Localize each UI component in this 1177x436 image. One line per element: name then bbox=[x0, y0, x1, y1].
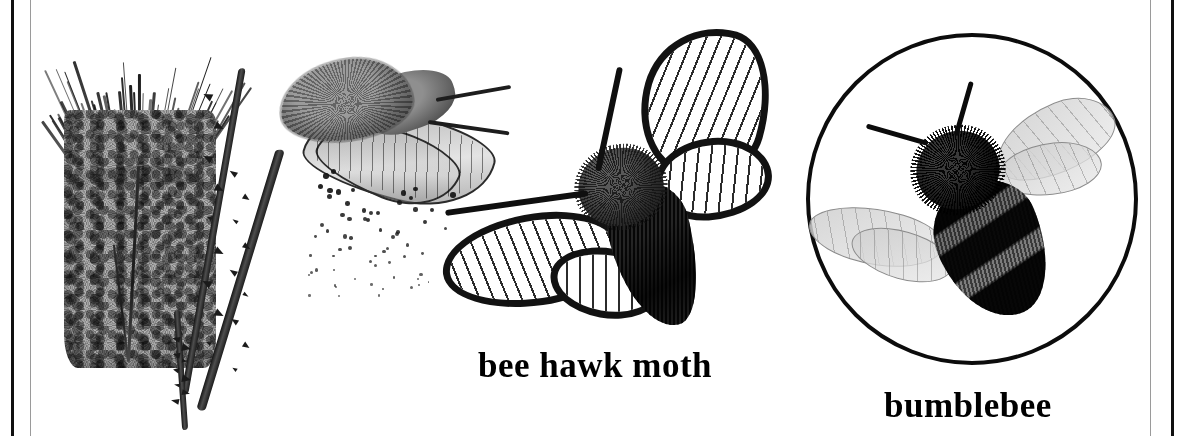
thistle-thorn bbox=[181, 343, 191, 353]
scale-dot bbox=[331, 169, 336, 174]
scale-dot bbox=[388, 261, 391, 264]
scale-dot bbox=[338, 295, 340, 297]
left-inner-rule bbox=[30, 0, 31, 436]
scale-dot bbox=[362, 208, 367, 213]
scale-dot bbox=[419, 273, 422, 276]
thistle-thorn bbox=[172, 351, 180, 358]
caption-bumblebee: bumblebee bbox=[884, 386, 1052, 426]
scale-dot bbox=[379, 228, 382, 231]
scale-dot bbox=[378, 294, 381, 297]
scale-dot bbox=[349, 236, 353, 240]
left-outer-rule bbox=[11, 0, 14, 436]
scale-dot bbox=[428, 281, 430, 283]
scale-dot bbox=[318, 184, 323, 189]
scale-dot bbox=[332, 255, 335, 258]
scale-dot bbox=[308, 274, 310, 276]
thistle-thorn bbox=[242, 193, 251, 202]
scale-dot bbox=[391, 235, 395, 239]
illustration-plate: bee hawk moth bumblebee bbox=[0, 0, 1177, 436]
thistle-thorn bbox=[171, 397, 180, 405]
scale-dot bbox=[340, 213, 344, 217]
right-outer-rule bbox=[1171, 0, 1174, 436]
thistle-thorn bbox=[242, 292, 249, 299]
right-inner-rule bbox=[1150, 0, 1151, 436]
thistle-thorn bbox=[242, 341, 251, 350]
scale-dot bbox=[382, 250, 385, 253]
scale-dot bbox=[310, 271, 313, 274]
scale-dot bbox=[309, 254, 312, 257]
scale-dot bbox=[403, 255, 406, 258]
scale-dot bbox=[335, 286, 337, 288]
scale-dot bbox=[338, 248, 341, 251]
scale-dot bbox=[409, 196, 413, 200]
scale-dot bbox=[376, 211, 380, 215]
scale-dot bbox=[345, 201, 350, 206]
scale-dot bbox=[421, 252, 424, 255]
thistle-thorn bbox=[181, 374, 191, 384]
scale-dot bbox=[413, 187, 418, 192]
scale-dot bbox=[320, 223, 325, 228]
scale-dot bbox=[326, 229, 330, 233]
caption-bee-hawk-moth: bee hawk moth bbox=[478, 346, 712, 386]
scale-dot bbox=[336, 189, 342, 195]
scale-dot bbox=[327, 194, 332, 199]
scale-dot bbox=[397, 200, 402, 205]
scale-dot bbox=[333, 269, 335, 271]
scale-dot bbox=[417, 278, 419, 280]
scale-dot bbox=[308, 294, 311, 297]
bumblebee-illustration bbox=[806, 33, 1138, 365]
scale-dot bbox=[369, 211, 373, 215]
scale-dot bbox=[370, 283, 373, 286]
scale-dot bbox=[395, 232, 399, 236]
scale-dot bbox=[413, 207, 417, 211]
scale-dot bbox=[410, 286, 413, 289]
scale-dot bbox=[323, 173, 329, 179]
scale-dot bbox=[393, 276, 396, 279]
scale-dot bbox=[314, 235, 317, 238]
scale-dot bbox=[343, 234, 347, 238]
scale-dot bbox=[406, 243, 409, 246]
thistle-thorn bbox=[231, 218, 238, 225]
scale-dot bbox=[401, 190, 406, 195]
scale-dot bbox=[369, 260, 372, 263]
scale-dot bbox=[348, 246, 352, 250]
bee-hawk-moth-illustration bbox=[438, 22, 768, 352]
scale-dot bbox=[374, 255, 376, 257]
scale-dot bbox=[347, 217, 352, 222]
scale-dot bbox=[430, 208, 434, 212]
scale-dot bbox=[327, 188, 332, 193]
scale-dot bbox=[386, 247, 389, 250]
scale-dot bbox=[374, 264, 377, 267]
scale-dot bbox=[418, 284, 420, 286]
scale-dot bbox=[354, 278, 356, 280]
scale-dot bbox=[351, 188, 355, 192]
thistle-thorn bbox=[232, 366, 238, 372]
scale-dot bbox=[382, 288, 383, 289]
scale-dot bbox=[423, 220, 427, 224]
scale-dot bbox=[363, 217, 367, 221]
thistle-thorn bbox=[173, 382, 180, 387]
scale-dot bbox=[315, 268, 318, 271]
